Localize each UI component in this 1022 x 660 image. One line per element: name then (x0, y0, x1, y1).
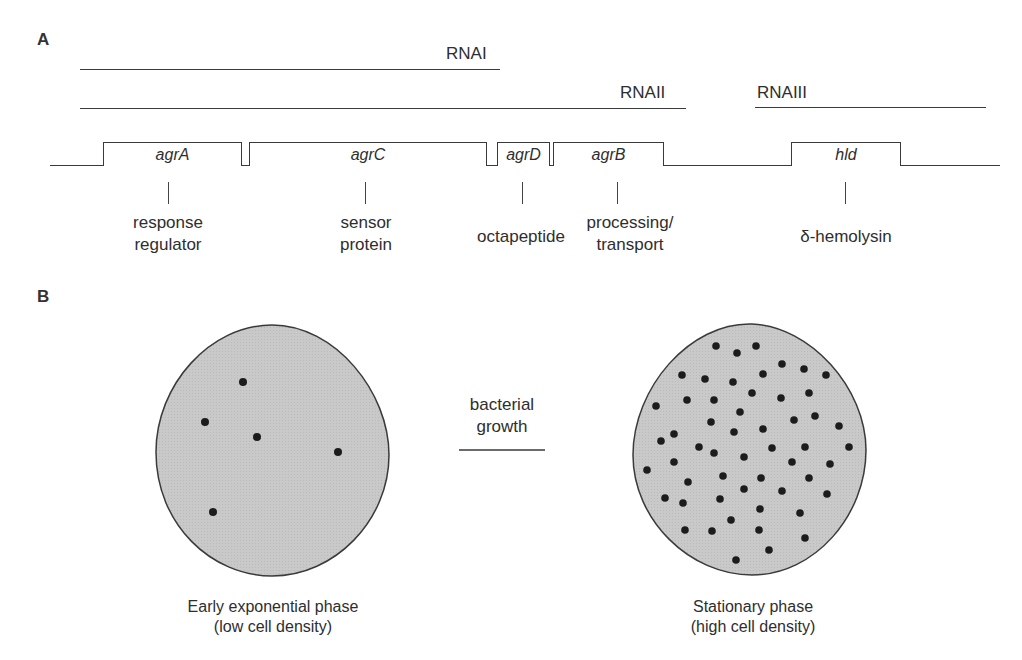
caption-line: Stationary phase (691, 597, 816, 617)
low-density-culture-blob (156, 325, 389, 576)
caption-line: (high cell density) (691, 617, 816, 637)
caption-early-exponential: Early exponential phase (low cell densit… (188, 597, 359, 637)
high-density-culture-blob (633, 324, 866, 575)
growth-label: bacterial growth (470, 394, 534, 438)
caption-line: Early exponential phase (188, 597, 359, 617)
growth-label-line: bacterial (470, 394, 534, 416)
growth-label-line: growth (470, 416, 534, 438)
population-illustration (0, 0, 1022, 660)
caption-stationary: Stationary phase (high cell density) (691, 597, 816, 637)
caption-line: (low cell density) (188, 617, 359, 637)
